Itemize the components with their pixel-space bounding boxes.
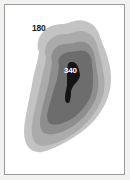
contour-map: [5, 5, 124, 174]
contour-label-340: 340: [64, 67, 77, 75]
figure-frame: 180 340: [0, 0, 130, 180]
contour-label-180: 180: [32, 24, 46, 33]
contour-plot-area: 180 340: [4, 4, 125, 175]
